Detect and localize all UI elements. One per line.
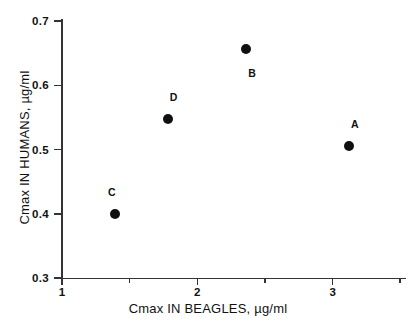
x-tick-label: 1 [59,286,65,298]
x-axis-title: Cmax IN BEAGLES, µg/ml [0,301,416,316]
y-tick-label: 0.6 [32,79,54,91]
x-tick-label: 2 [194,286,200,298]
y-tick-label: 0.4 [32,208,54,220]
x-tick-major [61,278,63,285]
data-point [163,114,173,124]
y-tick [54,149,62,151]
y-tick [54,20,62,22]
data-point [110,209,120,219]
data-point-label: B [248,67,256,79]
y-tick-label: 0.3 [32,272,54,284]
data-point-label: C [108,186,116,198]
y-tick [54,85,62,87]
x-tick-label: 3 [329,286,335,298]
data-point [344,141,354,151]
x-tick-major [332,278,334,285]
y-tick-label: 0.5 [32,144,54,156]
plot-area: CDBA [62,21,407,278]
x-tick-minor [399,278,401,283]
x-tick-major [197,278,199,285]
y-tick [54,213,62,215]
y-tick-label: 0.7 [32,15,54,27]
data-point-label: D [170,91,178,103]
chart-page: 0.70.60.50.40.3 123 CDBA Cmax IN BEAGLES… [0,0,416,327]
x-tick-minor [129,278,131,283]
y-axis-title: Cmax IN HUMANS, µg/ml [17,28,32,268]
data-point [241,44,251,54]
x-tick-minor [264,278,266,283]
data-point-label: A [351,118,359,130]
